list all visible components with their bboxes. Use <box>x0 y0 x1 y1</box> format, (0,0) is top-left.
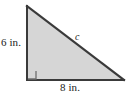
vertical-leg-label: 6 in. <box>1 37 21 48</box>
hypotenuse-label: c <box>75 31 80 42</box>
horizontal-leg-label: 8 in. <box>60 82 80 93</box>
right-triangle-figure: 6 in. 8 in. c <box>0 0 132 98</box>
